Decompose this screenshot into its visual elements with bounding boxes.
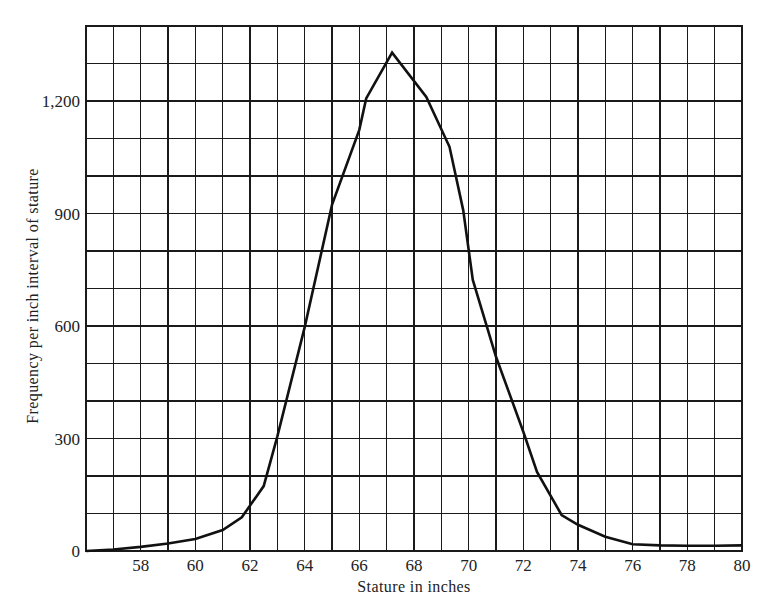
x-tick-label: 80 <box>734 556 751 575</box>
x-tick-label: 78 <box>679 556 696 575</box>
y-tick-label: 0 <box>72 542 81 561</box>
x-tick-label: 70 <box>460 556 477 575</box>
x-tick-label: 72 <box>515 556 532 575</box>
y-tick-label: 1,200 <box>42 92 80 111</box>
x-tick-label: 60 <box>187 556 204 575</box>
x-tick-label: 66 <box>351 556 368 575</box>
x-tick-label: 58 <box>132 556 149 575</box>
x-axis-title: Stature in inches <box>357 578 470 595</box>
chart: 586062646668707274767880 03006009001,200… <box>0 0 767 601</box>
x-tick-label: 68 <box>406 556 423 575</box>
x-axis-ticks: 586062646668707274767880 <box>132 556 750 575</box>
grid <box>86 26 742 551</box>
x-tick-label: 74 <box>570 556 588 575</box>
y-tick-label: 600 <box>55 317 81 336</box>
x-tick-label: 62 <box>242 556 259 575</box>
y-tick-label: 900 <box>55 205 81 224</box>
x-tick-label: 64 <box>296 556 314 575</box>
x-tick-label: 76 <box>624 556 641 575</box>
y-tick-label: 300 <box>55 430 81 449</box>
y-axis-ticks: 03006009001,200 <box>42 92 80 561</box>
y-axis-title: Frequency per inch interval of stature <box>24 168 42 424</box>
